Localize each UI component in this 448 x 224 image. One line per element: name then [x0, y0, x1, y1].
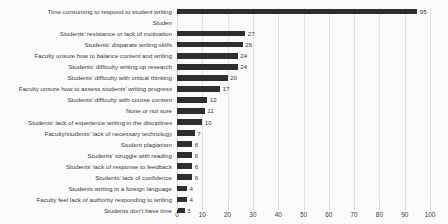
bar [177, 53, 238, 59]
x-tick-mark [329, 207, 330, 210]
bar-row: Students’ difficulty writing up research… [0, 61, 448, 72]
x-tick-label: 10 [199, 211, 206, 219]
x-tick-mark [253, 207, 254, 210]
bar-row: Students’ resistance or lack of motivati… [0, 28, 448, 39]
bar-value-label: 6 [195, 152, 198, 159]
bar [177, 130, 195, 136]
bar-row: Students writing in a foreign language4 [0, 183, 448, 194]
bar-value-label: 6 [195, 141, 198, 148]
category-label: Students’ disparate writing skills [0, 41, 172, 48]
bar-value-label: 10 [205, 119, 212, 126]
bar-value-label: 17 [223, 85, 230, 92]
bar-chart: Time consuming to respond to student wri… [0, 0, 448, 224]
bar [177, 108, 205, 114]
bar-value-label: 12 [210, 96, 217, 103]
x-tick-label: 80 [376, 211, 383, 219]
category-label: Students’ difficulty writing up research [0, 63, 172, 70]
category-label: Students’ resistance or lack of motivati… [0, 30, 172, 37]
x-tick-mark [202, 207, 203, 210]
category-label: Students writing in a foreign language [0, 185, 172, 192]
x-tick-label: 70 [351, 211, 358, 219]
bar-row: Students’ disparate writing skills26 [0, 39, 448, 50]
bar-row: Students’ lack of response to feedback6 [0, 161, 448, 172]
x-tick-label: 40 [275, 211, 282, 219]
category-label: Students’ struggle with reading [0, 152, 172, 159]
bar [177, 31, 245, 37]
category-label: Students’ lack of response to feedback [0, 163, 172, 170]
category-label: Students’ lack of experience writing in … [0, 119, 172, 126]
bar-row: Time consuming to respond to student wri… [0, 6, 448, 17]
bar-row: Faculty unsure how to assess students’ w… [0, 83, 448, 94]
bar-value-label: 4 [190, 196, 193, 203]
bar-value-label: 6 [195, 174, 198, 181]
bar-row: Students’ struggle with reading6 [0, 150, 448, 161]
bar [177, 141, 192, 147]
bar-value-label: 7 [197, 130, 200, 137]
bar [177, 163, 192, 169]
bar [177, 42, 243, 48]
bar-row: None or not sure11 [0, 105, 448, 116]
category-label: Faculty feel lack of authority respondin… [0, 196, 172, 203]
category-label: Time consuming to respond to student wri… [0, 8, 172, 15]
bar [177, 9, 417, 15]
x-tick-mark [354, 207, 355, 210]
category-label: Students’ difficulty with course content [0, 96, 172, 103]
x-tick-label: 30 [249, 211, 256, 219]
bar [177, 174, 192, 180]
bar-value-label: 95 [420, 8, 427, 15]
x-tick-label: 60 [325, 211, 332, 219]
x-tick-mark [228, 207, 229, 210]
bar-value-label: 6 [195, 163, 198, 170]
bar-value-label: 26 [245, 41, 252, 48]
bar-row: Students’ lack of experience writing in … [0, 117, 448, 128]
bar [177, 86, 220, 92]
bar-value-label: 27 [248, 30, 255, 37]
x-tick-mark [304, 207, 305, 210]
bar-row: Students’ lack of confidence6 [0, 172, 448, 183]
bar-row: Students’ difficulty with critical think… [0, 72, 448, 83]
bar-row: Faculty/students’ lack of necessary tech… [0, 128, 448, 139]
bar-row: Students’ difficulty with course content… [0, 94, 448, 105]
bar [177, 152, 192, 158]
category-label: Students’ lack of confidence [0, 174, 172, 181]
x-tick-label: 20 [224, 211, 231, 219]
bar [177, 197, 187, 203]
bar-row: Faculty feel lack of authority respondin… [0, 194, 448, 205]
category-label: None or not sure [0, 107, 172, 114]
bar-value-label: 11 [207, 107, 213, 114]
bar-value-label: 20 [230, 74, 237, 81]
category-label: Students’ difficulty with critical think… [0, 74, 172, 81]
x-tick-label: 50 [300, 211, 307, 219]
category-label: Faculty unsure how to assess students’ w… [0, 85, 172, 92]
x-tick-label: 90 [401, 211, 408, 219]
bar-row: Student plagiarism6 [0, 139, 448, 150]
category-label: Studen [0, 19, 172, 26]
x-tick-mark [379, 207, 380, 210]
x-axis: 0102030405060708090100 [0, 207, 448, 224]
x-tick-mark [430, 207, 431, 210]
bar-row: Faculty unsure how to balance content an… [0, 50, 448, 61]
x-tick-mark [278, 207, 279, 210]
category-label: Faculty/students’ lack of necessary tech… [0, 130, 172, 137]
bar [177, 97, 207, 103]
bar [177, 186, 187, 192]
x-tick-mark [405, 207, 406, 210]
x-tick-label: 100 [425, 211, 436, 219]
x-tick-label: 0 [175, 211, 179, 219]
bar-rows: Time consuming to respond to student wri… [0, 0, 448, 199]
x-tick-mark [177, 207, 178, 210]
bar [177, 64, 238, 70]
category-label: Faculty unsure how to balance content an… [0, 52, 172, 59]
bar-value-label: 24 [240, 63, 247, 70]
category-label: Student plagiarism [0, 141, 172, 148]
bar-value-label: 4 [190, 185, 193, 192]
bar-value-label: 24 [240, 52, 247, 59]
bar [177, 75, 228, 81]
bar [177, 119, 202, 125]
bar-row: Studen [0, 17, 448, 28]
